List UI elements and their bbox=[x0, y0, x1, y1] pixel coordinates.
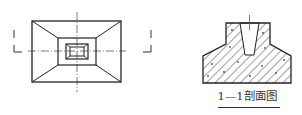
section-caption: 1—1剖面图 bbox=[214, 87, 280, 103]
section-view bbox=[200, 15, 295, 86]
caption-underline bbox=[218, 107, 280, 108]
section-mark-right bbox=[143, 30, 151, 52]
section-mark-left bbox=[14, 30, 22, 52]
plan-view bbox=[28, 12, 126, 92]
